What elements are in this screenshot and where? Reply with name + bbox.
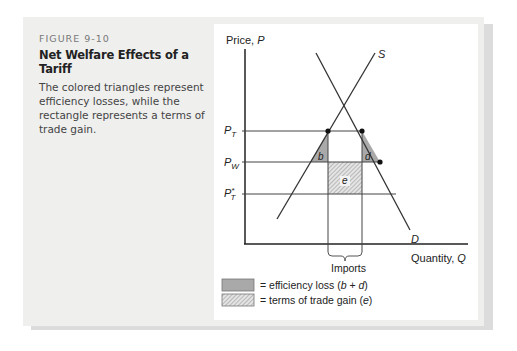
area-e-label: e xyxy=(342,175,348,186)
point-demand-pt xyxy=(359,128,364,133)
point-demand-pw xyxy=(377,159,382,164)
y-axis-label: Price, P xyxy=(226,34,265,46)
legend-label-terms-of-trade: = terms of trade gain (e) xyxy=(260,294,372,306)
pw-label: PW xyxy=(224,156,240,171)
legend-swatch-terms-of-trade xyxy=(222,294,254,306)
imports-label: Imports xyxy=(331,262,366,274)
pt-label: PT xyxy=(224,124,237,139)
tariff-diagram: Price, P S D Quantity, Q PT PW P*T b d e… xyxy=(0,0,517,351)
legend-label-efficiency-loss: = efficiency loss (b + d) xyxy=(260,279,368,291)
demand-curve xyxy=(316,53,410,230)
demand-label: D xyxy=(411,233,419,245)
ptstar-label: P*T xyxy=(224,186,236,202)
imports-bracket xyxy=(328,252,362,261)
x-axis-label: Quantity, Q xyxy=(411,252,466,264)
area-b-label: b xyxy=(318,151,324,162)
legend-swatch-efficiency-loss xyxy=(222,279,254,291)
supply-label: S xyxy=(378,48,386,60)
area-d-label: d xyxy=(365,151,371,162)
point-supply-pt xyxy=(325,128,330,133)
